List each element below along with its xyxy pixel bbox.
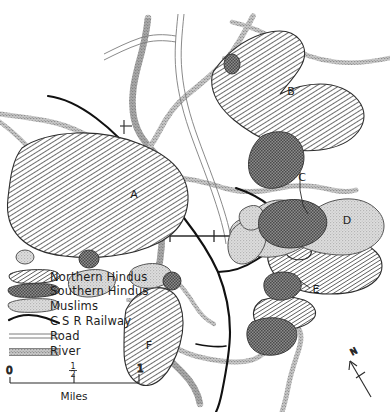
scale-label-0: 0 xyxy=(6,364,13,376)
area-label-A: A xyxy=(130,188,138,201)
legend-label-csr-railway: C S R Railway xyxy=(50,314,131,328)
legend-label-muslims: Muslims xyxy=(50,299,98,313)
map-figure: A B C D E F N Northern Hindus Southern H… xyxy=(0,0,390,412)
region-dark-near-b xyxy=(224,54,240,74)
legend-row-northern-hindus: Northern Hindus xyxy=(9,270,147,284)
area-label-B: B xyxy=(287,85,295,98)
area-label-F: F xyxy=(146,339,152,352)
region-dark-near-f xyxy=(163,272,181,290)
legend-label-northern-hindus: Northern Hindus xyxy=(50,270,147,284)
legend-label-road: Road xyxy=(50,329,80,343)
scale-unit-label: Miles xyxy=(61,390,88,402)
scale-label-half-denominator: 2 xyxy=(70,370,75,379)
legend-label-southern-hindus: Southern Hindus xyxy=(50,284,149,298)
region-muslims-left-small xyxy=(16,250,34,264)
legend-row-southern-hindus: Southern Hindus xyxy=(8,284,149,298)
legend-row-muslims: Muslims xyxy=(8,299,98,313)
area-label-E: E xyxy=(313,283,320,296)
area-label-C: C xyxy=(298,171,306,184)
area-label-D: D xyxy=(343,214,351,227)
region-dark-below-a xyxy=(79,250,99,268)
legend-label-river: River xyxy=(50,344,81,358)
scale-label-1: 1 xyxy=(137,362,144,374)
